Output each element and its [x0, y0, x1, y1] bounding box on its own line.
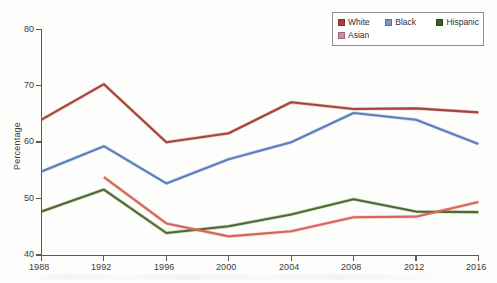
legend-label-black: Black [395, 18, 416, 27]
chart-legend[interactable]: White Black Hispanic Asian [332, 12, 484, 46]
legend-swatch-black-icon [385, 19, 392, 26]
legend-label-asian: Asian [348, 31, 369, 40]
legend-item-black[interactable]: Black [385, 18, 436, 27]
legend-item-hispanic[interactable]: Hispanic [436, 18, 479, 27]
y-axis-ticks [36, 30, 41, 256]
series-halo-white [42, 84, 479, 142]
legend-row-2: Asian [338, 29, 479, 42]
legend-row-1: White Black Hispanic [338, 16, 479, 29]
legend-item-white[interactable]: White [338, 18, 385, 27]
series-line-white[interactable] [42, 84, 479, 142]
chart-page: Percentage 80 70 60 50 40 1988 1992 1996… [0, 0, 497, 283]
legend-label-hispanic: Hispanic [446, 18, 479, 27]
legend-label-white: White [348, 18, 370, 27]
legend-item-asian[interactable]: Asian [338, 31, 369, 40]
series-layer [42, 84, 479, 236]
series-line-black[interactable] [42, 113, 479, 183]
legend-swatch-hispanic-icon [436, 19, 443, 26]
series-line-hispanic[interactable] [42, 190, 479, 233]
legend-swatch-white-icon [338, 19, 345, 26]
legend-swatch-asian-icon [338, 32, 345, 39]
